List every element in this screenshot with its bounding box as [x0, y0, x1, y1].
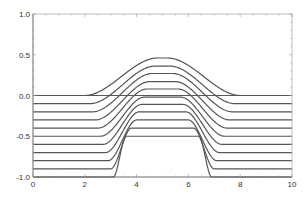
y-tick-label: -1.0 [16, 173, 30, 182]
y-tick-label: 1.0 [19, 10, 31, 19]
x-tick-label: 6 [186, 180, 191, 189]
series-line-10 [33, 136, 292, 177]
series-line-2 [33, 74, 292, 112]
curves [33, 58, 292, 177]
x-tick-label: 0 [31, 180, 36, 189]
series-line-1 [33, 66, 292, 103]
series-line-6 [33, 104, 292, 144]
series-line-5 [33, 97, 292, 136]
line-chart: 02468101.00.50.0-0.5-1.0 [0, 0, 308, 199]
series-line-0 [33, 58, 292, 95]
y-tick-label: -0.5 [16, 132, 30, 141]
x-tick-label: 4 [134, 180, 139, 189]
tick-labels: 02468101.00.50.0-0.5-1.0 [16, 10, 297, 189]
x-tick-label: 2 [83, 180, 88, 189]
series-line-4 [33, 89, 292, 128]
series-line-9 [33, 128, 292, 169]
series-line-8 [33, 120, 292, 161]
y-tick-label: 0.5 [19, 51, 31, 60]
x-tick-label: 10 [288, 180, 297, 189]
series-line-7 [33, 112, 292, 153]
series-line-3 [33, 82, 292, 120]
y-tick-label: 0.0 [19, 92, 31, 101]
x-tick-label: 8 [238, 180, 243, 189]
